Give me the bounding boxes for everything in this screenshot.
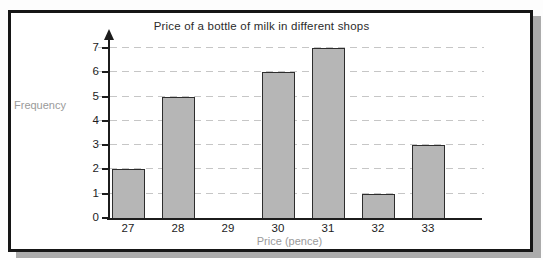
chart-title: Price of a bottle of milk in different s… — [11, 20, 530, 32]
page: { "chart_data": { "type": "bar", "title"… — [0, 0, 543, 260]
x-category-label-28: 28 — [161, 222, 195, 234]
y-tick-1 — [102, 193, 109, 195]
y-tick-label-5: 5 — [69, 90, 99, 102]
y-tick-2 — [102, 168, 109, 170]
x-axis-label: Price (pence) — [98, 235, 481, 247]
y-tick-label-7: 7 — [69, 41, 99, 53]
y-tick-0 — [102, 217, 109, 219]
y-tick-7 — [102, 47, 109, 49]
bar-31 — [312, 48, 345, 218]
x-category-label-29: 29 — [211, 222, 245, 234]
y-tick-label-4: 4 — [69, 114, 99, 126]
x-category-label-32: 32 — [361, 222, 395, 234]
gridline-y7 — [98, 47, 484, 48]
bar-33 — [412, 145, 445, 218]
x-axis-line — [107, 218, 482, 220]
x-category-label-33: 33 — [411, 222, 445, 234]
x-category-label-31: 31 — [311, 222, 345, 234]
y-tick-5 — [102, 96, 109, 98]
y-axis-arrow-icon — [104, 29, 114, 40]
y-tick-label-2: 2 — [69, 162, 99, 174]
chart-frame: Price of a bottle of milk in different s… — [8, 10, 533, 252]
y-tick-3 — [102, 144, 109, 146]
plot-area — [98, 48, 481, 218]
x-category-label-27: 27 — [111, 222, 145, 234]
y-tick-label-0: 0 — [69, 211, 99, 223]
bar-30 — [262, 72, 295, 218]
y-tick-6 — [102, 71, 109, 73]
bar-27 — [112, 169, 145, 218]
y-tick-label-6: 6 — [69, 65, 99, 77]
bar-28 — [162, 97, 195, 218]
bar-32 — [362, 194, 395, 218]
y-tick-label-1: 1 — [69, 187, 99, 199]
x-category-label-30: 30 — [261, 222, 295, 234]
y-tick-4 — [102, 120, 109, 122]
y-tick-label-3: 3 — [69, 138, 99, 150]
